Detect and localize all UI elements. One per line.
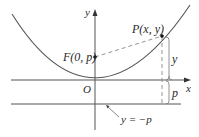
parabola-curve [12, 5, 190, 78]
origin-label: O [83, 83, 91, 95]
y-axis-label: y [84, 6, 90, 18]
y-axis-arrow-icon [93, 9, 98, 16]
focus-label: F(0, p) [62, 50, 96, 64]
y-distance-label: y [171, 52, 178, 66]
parabola-diagram: x y y p F(0, p) P(x, y) O y = −p [0, 0, 199, 137]
x-axis: x [11, 78, 191, 95]
p-distance-label: p [171, 86, 178, 100]
x-axis-label: x [185, 82, 191, 94]
focus-to-point-dashed-line [95, 36, 162, 57]
directrix-label: y = −p [120, 113, 152, 125]
directrix-pointer-line [108, 107, 119, 117]
y-axis: y [84, 6, 98, 130]
p-distance-bracket [166, 81, 169, 104]
point-label: P(x, y) [131, 22, 164, 36]
